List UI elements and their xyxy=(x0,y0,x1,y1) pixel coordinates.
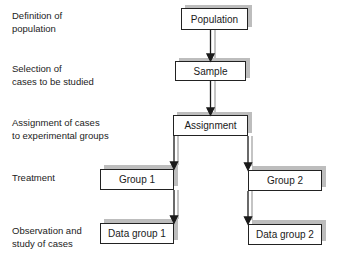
connector-arrows xyxy=(0,0,341,253)
arrow-shadows xyxy=(178,30,252,220)
